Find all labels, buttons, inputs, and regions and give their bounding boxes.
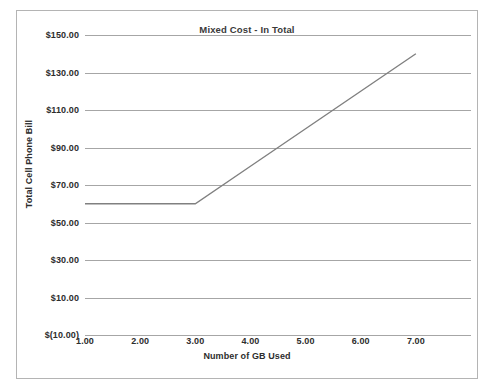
line-series-svg	[85, 35, 471, 335]
x-axis-tick-label: 4.00	[241, 336, 259, 346]
x-axis-tick-label: 3.00	[186, 336, 204, 346]
chart-title: Mixed Cost - In Total	[17, 24, 477, 35]
y-axis-tick-label: $130.00	[46, 68, 79, 78]
x-axis-tick-label: 5.00	[297, 336, 315, 346]
y-axis-tick-label: $(10.00)	[45, 330, 79, 340]
data-line	[85, 54, 416, 204]
x-axis-tick-label: 1.00	[76, 336, 94, 346]
y-axis-tick-label: $10.00	[51, 293, 79, 303]
plot-area	[85, 35, 471, 335]
x-axis-tick-label: 2.00	[131, 336, 149, 346]
x-axis-title: Number of GB Used	[77, 351, 417, 361]
y-axis-tick-label: $110.00	[46, 105, 79, 115]
x-axis-tick-label: 7.00	[407, 336, 425, 346]
chart-frame: Mixed Cost - In Total Total Cell Phone B…	[16, 10, 478, 379]
x-axis-tick-label: 6.00	[352, 336, 370, 346]
y-axis-tick-label: $70.00	[51, 180, 79, 190]
y-axis-tick-label: $50.00	[51, 218, 79, 228]
y-axis-tick-label: $150.00	[46, 30, 79, 40]
y-axis-tick-label: $30.00	[51, 255, 79, 265]
x-axis-tick-labels: 1.002.003.004.005.006.007.00	[85, 336, 471, 352]
y-axis-tick-label: $90.00	[51, 143, 79, 153]
y-axis-tick-labels: $150.00$130.00$110.00$90.00$70.00$50.00$…	[17, 35, 83, 335]
